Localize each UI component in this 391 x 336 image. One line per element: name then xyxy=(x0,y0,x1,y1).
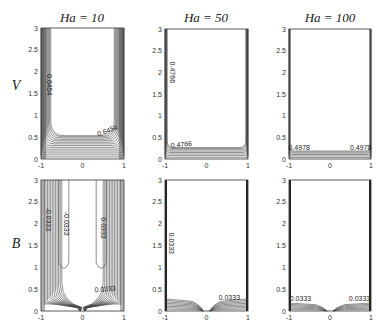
y-tick-label: 3 xyxy=(34,177,38,184)
x-tick-label: 1 xyxy=(122,314,126,321)
y-tick-label: 2.5 xyxy=(276,47,286,54)
y-tick-label: 3 xyxy=(158,26,162,33)
y-tick-label: 0.5 xyxy=(28,134,38,141)
y-tick-label: 1.5 xyxy=(276,91,286,98)
y-tick-label: 2.5 xyxy=(28,46,38,53)
contour-label: 0.4766 xyxy=(169,62,176,84)
y-tick-label: 1.5 xyxy=(28,242,38,249)
y-tick-label: 3 xyxy=(158,177,162,184)
contour-label: 0.0333 xyxy=(290,295,312,302)
y-tick-label: 3 xyxy=(34,25,38,32)
y-tick-label: 0.5 xyxy=(152,286,162,293)
x-tick-label: -1 xyxy=(38,162,44,169)
contour-label: 0.4978 xyxy=(350,144,372,151)
y-tick-label: 2 xyxy=(158,69,162,76)
y-tick-label: 1.5 xyxy=(28,90,38,97)
y-tick-label: 1 xyxy=(282,112,286,119)
col-title-1: Ha = 10 xyxy=(59,10,105,25)
col-title-3: Ha = 100 xyxy=(304,10,356,25)
panel-V-3: 00.511.522.53-1010.49780.4978 xyxy=(276,26,373,170)
y-tick-label: 2 xyxy=(282,220,286,227)
y-tick-label: 3 xyxy=(282,26,286,33)
axes-frame xyxy=(289,180,371,311)
x-tick-label: -1 xyxy=(286,314,292,321)
y-tick-label: 2 xyxy=(282,69,286,76)
contour-label: 0.4978 xyxy=(289,144,311,151)
x-tick-label: -1 xyxy=(286,162,292,169)
y-tick-label: 2 xyxy=(34,220,38,227)
panel-V-2: 00.511.522.53-1010.47660.4766 xyxy=(152,26,250,170)
x-tick-label: 0 xyxy=(205,314,209,321)
y-tick-label: 2 xyxy=(34,68,38,75)
x-tick-label: 1 xyxy=(246,314,250,321)
y-tick-label: 1 xyxy=(282,264,286,271)
axes-frame xyxy=(165,29,248,159)
y-tick-label: 0.5 xyxy=(276,286,286,293)
x-tick-label: 0 xyxy=(205,162,209,169)
y-tick-label: 1.5 xyxy=(152,242,162,249)
x-tick-label: -1 xyxy=(38,314,44,321)
y-tick-label: 3 xyxy=(282,177,286,184)
panel-B-2: 00.511.522.53-1010.03330.0333 xyxy=(152,177,250,322)
x-tick-label: 0 xyxy=(81,314,85,321)
y-tick-label: 1 xyxy=(158,112,162,119)
panel-V-1: 00.511.522.53-1010.64540.6454 xyxy=(28,25,126,170)
contour-label: 0.0333 xyxy=(219,294,241,301)
row-label-b: B xyxy=(12,236,21,251)
contour-figure: Ha = 10 Ha = 50 Ha = 100 V B 00.511.522.… xyxy=(0,0,391,336)
contour-label: 0.0333 xyxy=(100,217,107,239)
x-tick-label: -1 xyxy=(162,162,168,169)
y-tick-label: 0.5 xyxy=(152,134,162,141)
contour-label: -0.0333 xyxy=(45,207,52,231)
y-tick-label: 0.5 xyxy=(28,286,38,293)
y-tick-label: 2.5 xyxy=(152,198,162,205)
x-tick-label: 1 xyxy=(369,162,373,169)
y-tick-label: 2.5 xyxy=(28,198,38,205)
x-tick-label: 0 xyxy=(81,162,85,169)
x-tick-label: 1 xyxy=(122,162,126,169)
y-tick-label: 2.5 xyxy=(152,47,162,54)
y-tick-label: 1 xyxy=(34,112,38,119)
contour-label: -0.0333 xyxy=(63,212,70,236)
y-tick-label: 2.5 xyxy=(276,198,286,205)
row-label-v: V xyxy=(12,78,22,93)
x-tick-label: 0 xyxy=(328,162,332,169)
contour-label: 0.6454 xyxy=(46,74,53,96)
y-tick-label: 0.5 xyxy=(276,134,286,141)
y-tick-label: 1.5 xyxy=(152,91,162,98)
axes-frame xyxy=(165,180,248,311)
col-title-2: Ha = 50 xyxy=(183,10,229,25)
x-tick-label: -1 xyxy=(162,314,168,321)
panel-B-3: 00.511.522.53-1010.03330.0333 xyxy=(276,177,373,322)
y-tick-label: 1 xyxy=(158,264,162,271)
axes-frame xyxy=(289,29,371,159)
y-tick-label: 1 xyxy=(34,264,38,271)
y-tick-label: 2 xyxy=(158,220,162,227)
x-tick-label: 0 xyxy=(328,314,332,321)
x-tick-label: 1 xyxy=(246,162,250,169)
x-tick-label: 1 xyxy=(369,314,373,321)
y-tick-label: 1.5 xyxy=(276,242,286,249)
contour-label: 0.0333 xyxy=(168,233,175,255)
contour-label: 0.0333 xyxy=(349,295,371,302)
panel-B-1: 00.511.522.53-101-0.0333-0.03330.03330.0… xyxy=(28,177,126,322)
